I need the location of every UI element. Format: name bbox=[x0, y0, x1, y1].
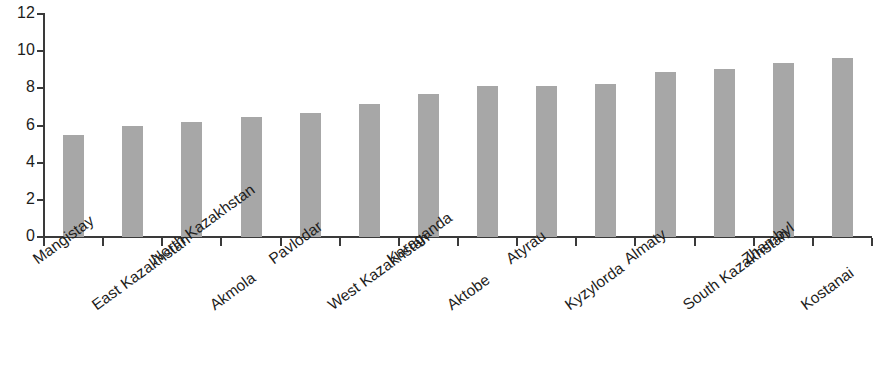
y-axis-tick-label: 4 bbox=[3, 153, 35, 171]
bar bbox=[655, 72, 676, 237]
y-axis-tick bbox=[37, 13, 44, 15]
bar bbox=[300, 113, 321, 238]
x-axis-tick bbox=[457, 238, 459, 246]
bar bbox=[536, 86, 557, 237]
y-axis-tick-label: 2 bbox=[3, 190, 35, 208]
x-axis-tick bbox=[220, 238, 222, 246]
y-axis-tick-label: 0 bbox=[3, 227, 35, 245]
y-axis-tick-label: 10 bbox=[3, 41, 35, 59]
x-axis-tick bbox=[339, 238, 341, 246]
bar bbox=[122, 126, 143, 238]
x-axis-tick bbox=[575, 238, 577, 246]
x-axis-tick bbox=[102, 238, 104, 246]
bar bbox=[359, 104, 380, 237]
x-axis-tick bbox=[694, 238, 696, 246]
y-axis-tick bbox=[37, 199, 44, 201]
y-axis-tick bbox=[37, 87, 44, 89]
y-axis-tick bbox=[37, 162, 44, 164]
y-axis-tick-label: 8 bbox=[3, 78, 35, 96]
y-axis-tick-label: 12 bbox=[3, 4, 35, 22]
x-axis-tick bbox=[871, 238, 873, 246]
y-axis-tick bbox=[37, 50, 44, 52]
bars-container bbox=[44, 14, 872, 237]
bar bbox=[595, 84, 616, 237]
bar bbox=[241, 117, 262, 237]
bar bbox=[714, 69, 735, 237]
x-axis-label: Aktobe bbox=[443, 271, 493, 314]
x-axis-label: Akmola bbox=[206, 269, 259, 314]
bar bbox=[832, 58, 853, 237]
bar bbox=[773, 63, 794, 237]
y-axis-tick-label: 6 bbox=[3, 116, 35, 134]
bar-chart: 024681012 MangistayEast KazakhstanNorth … bbox=[0, 0, 876, 373]
y-axis-tick bbox=[37, 125, 44, 127]
x-axis-label: Kostanai bbox=[798, 264, 858, 314]
bar bbox=[477, 86, 498, 237]
x-axis-label: Kyzylorda bbox=[561, 259, 627, 314]
x-axis-tick bbox=[812, 238, 814, 246]
